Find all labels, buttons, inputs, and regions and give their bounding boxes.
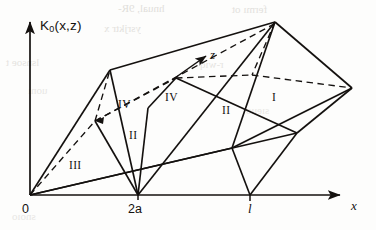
y-axis-label-args: (x,z)	[54, 18, 81, 33]
edge-2a-apex	[138, 22, 275, 195]
hidden-edge-u-r	[252, 75, 352, 88]
region-label-IV-left: IV	[118, 99, 131, 111]
edge-o-leftpeak	[30, 70, 110, 195]
edge-mid-2a	[138, 108, 148, 195]
region-label-IV-right: IV	[165, 92, 178, 104]
figure-canvas: hnual, 9R- fermı ot ysrjktr x lsnsoe t r…	[0, 0, 376, 230]
region-label-II-right: II	[222, 105, 230, 117]
hidden-edge-o-s	[30, 121, 95, 195]
y-axis-label-subscript: 0	[49, 24, 54, 34]
y-axis-label-main: K	[40, 18, 49, 33]
region-label-II-left: II	[129, 130, 137, 142]
edge-o-wnode	[30, 148, 232, 195]
edge-l-wnode	[232, 148, 250, 195]
z-axis-label: z	[210, 48, 215, 61]
tick-label-origin: 0	[22, 203, 29, 216]
tick-label-l: l	[248, 202, 252, 215]
hidden-edge-t-u	[176, 75, 252, 78]
edge-leftpeak-apex	[110, 22, 275, 70]
y-axis-label: K0(x,z)	[40, 19, 82, 33]
edge-apex-right	[275, 22, 352, 88]
x-axis-label: x	[351, 199, 357, 212]
tick-label-2a: 2a	[128, 203, 142, 216]
region-label-III: III	[69, 160, 81, 172]
region-label-I: I	[272, 92, 276, 104]
diagram-lines	[0, 0, 376, 230]
